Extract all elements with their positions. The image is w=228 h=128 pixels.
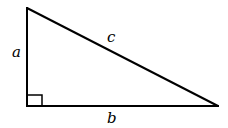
- label-c: c: [107, 28, 116, 46]
- triangle: [27, 8, 218, 106]
- label-a: a: [12, 43, 21, 61]
- side-c-hypotenuse-line: [27, 8, 218, 106]
- right-triangle-diagram: a c b: [0, 0, 228, 128]
- label-b: b: [107, 109, 117, 127]
- right-angle-marker: [27, 95, 42, 106]
